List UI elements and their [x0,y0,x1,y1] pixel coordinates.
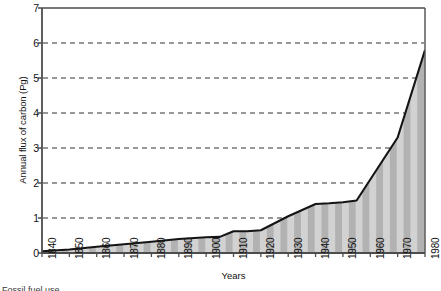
x-tick-label: 1940 [320,238,331,259]
figure-caption: Fossil fuel use ... [2,285,70,291]
x-tick-label: 1890 [183,238,194,259]
x-tick-label: 1860 [101,238,112,259]
x-tick-label: 1850 [74,238,85,259]
x-tick-label: 1880 [156,238,167,259]
x-axis-title: Years [42,270,425,281]
x-tick-label: 1870 [129,238,140,259]
x-tick-label: 1910 [238,238,249,259]
x-tick-label: 1970 [402,238,413,259]
x-tick-label: 1980 [430,238,441,259]
x-tick-label: 1950 [347,238,358,259]
x-tick-label: 1920 [265,238,276,259]
x-tick-label: 1960 [375,238,386,259]
x-tick-label: 1900 [211,238,222,259]
x-tick-label: 1930 [293,238,304,259]
x-tick-label: 1840 [47,238,58,259]
